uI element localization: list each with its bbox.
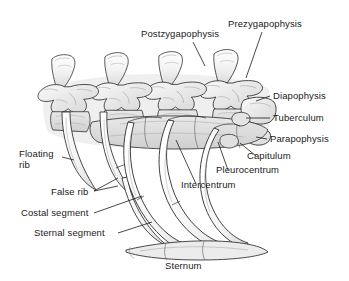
leader-prezygapophysis [246, 32, 262, 78]
leader-postzygapophysis [193, 42, 205, 66]
label-capitulum: Capitulum [247, 150, 291, 161]
label-postzygapophysis: Postzygapophysis [141, 28, 219, 39]
label-floating-rib-line2: rib [19, 159, 30, 170]
label-parapophysis: Parapophysis [270, 133, 329, 144]
label-sternal-segment: Sternal segment [34, 227, 105, 238]
label-costal-segment: Costal segment [21, 207, 88, 218]
label-tuberculum: Tuberculum [273, 112, 324, 123]
label-intercentrum: Intercentrum [181, 179, 236, 190]
capitulum-head [220, 134, 239, 148]
leader-false-rib-b [94, 186, 118, 191]
anatomy-figure: Postzygapophysis Prezygapophysis Diapoph… [0, 0, 349, 281]
label-sternum: Sternum [165, 260, 202, 271]
label-false-rib: False rib [51, 186, 88, 197]
label-pleurocentrum: Pleurocentrum [216, 164, 279, 175]
leader-false-rib-a [94, 178, 118, 191]
label-prezygapophysis: Prezygapophysis [228, 18, 302, 29]
label-diapophysis: Diapophysis [273, 90, 326, 101]
label-floating-rib-line1: Floating [19, 148, 54, 159]
vertebral-column [38, 50, 276, 149]
sternum-bone [126, 241, 268, 260]
